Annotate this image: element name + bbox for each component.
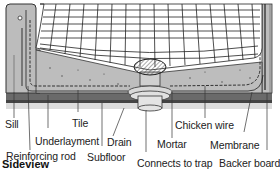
label-membrane: Membrane <box>210 139 259 151</box>
label-tile: Tile <box>72 117 88 129</box>
sill-wall <box>6 4 40 93</box>
label-drain: Drain <box>107 136 132 148</box>
label-mortar: Mortar <box>157 138 187 150</box>
diagram-title: Sideview <box>2 158 49 171</box>
shower-pan-sideview-diagram: Sill Reinforcing rod Underlayment Tile S… <box>0 0 280 180</box>
label-chicken-wire: Chicken wire <box>175 119 234 131</box>
label-connects-to-trap: Connects to trap <box>137 157 212 169</box>
label-sill: Sill <box>5 118 19 130</box>
label-backer-board: Backer board <box>219 157 280 169</box>
backer-board-wall <box>262 4 272 93</box>
label-underlayment: Underlayment <box>35 135 99 147</box>
label-subfloor: Subfloor <box>87 151 125 163</box>
